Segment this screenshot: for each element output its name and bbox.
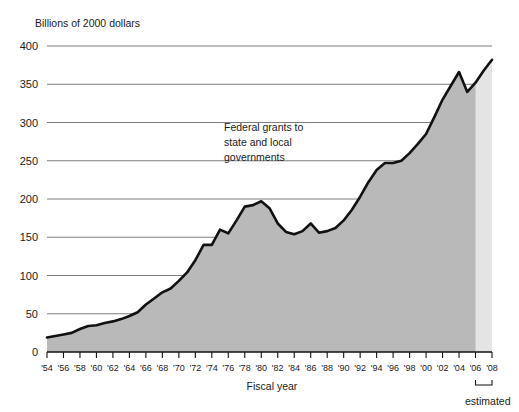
- x-tick-label: '60: [91, 363, 103, 373]
- annotation-line-2: state and local: [224, 136, 292, 148]
- x-axis-title: Fiscal year: [247, 380, 298, 392]
- x-tick-label: '88: [321, 363, 333, 373]
- x-tick-label: '82: [272, 363, 284, 373]
- y-tick-label: 0: [32, 346, 38, 358]
- x-tick-label: '78: [239, 363, 251, 373]
- estimated-region-fill: [476, 60, 492, 352]
- x-tick-label: '58: [74, 363, 86, 373]
- x-tick-label: '68: [157, 363, 169, 373]
- axes: [47, 352, 492, 358]
- y-tick-label: 250: [20, 155, 38, 167]
- y-axis-tick-labels: 050100150200250300350400: [20, 40, 38, 358]
- x-tick-label: '90: [338, 363, 350, 373]
- x-tick-label: '70: [173, 363, 185, 373]
- x-tick-label: '06: [470, 363, 482, 373]
- x-tick-label: '00: [420, 363, 432, 373]
- federal-grants-area-chart: 050100150200250300350400 '54'56'58'60'62…: [0, 0, 519, 412]
- y-tick-label: 400: [20, 40, 38, 52]
- x-tick-label: '56: [58, 363, 70, 373]
- chart-container: 050100150200250300350400 '54'56'58'60'62…: [0, 0, 519, 412]
- x-tick-label: '94: [371, 363, 383, 373]
- x-tick-label: '84: [288, 363, 300, 373]
- x-tick-label: '08: [486, 363, 498, 373]
- y-tick-label: 350: [20, 78, 38, 90]
- x-tick-label: '62: [107, 363, 119, 373]
- area-series-fill: [47, 60, 492, 352]
- annotation-line-1: Federal grants to: [224, 121, 304, 133]
- x-tick-label: '86: [305, 363, 317, 373]
- y-tick-label: 100: [20, 270, 38, 282]
- estimated-fill-path: [476, 60, 492, 352]
- area-fill-path: [47, 60, 492, 352]
- x-tick-label: '80: [255, 363, 267, 373]
- x-tick-label: '72: [189, 363, 201, 373]
- y-tick-label: 300: [20, 117, 38, 129]
- x-tick-label: '02: [437, 363, 449, 373]
- x-axis-tick-labels: '54'56'58'60'62'64'66'68'70'72'74'76'78'…: [41, 363, 498, 373]
- y-tick-label: 200: [20, 193, 38, 205]
- x-tick-label: '64: [124, 363, 136, 373]
- y-tick-label: 50: [26, 308, 38, 320]
- x-tick-label: '04: [453, 363, 465, 373]
- estimated-bracket: [476, 380, 492, 385]
- x-tick-label: '76: [222, 363, 234, 373]
- y-axis-unit-label: Billions of 2000 dollars: [35, 17, 140, 29]
- x-tick-label: '92: [354, 363, 366, 373]
- y-tick-label: 150: [20, 231, 38, 243]
- x-tick-label: '98: [404, 363, 416, 373]
- x-tick-label: '66: [140, 363, 152, 373]
- x-tick-label: '54: [41, 363, 53, 373]
- estimated-label: estimated: [465, 395, 511, 407]
- x-tick-label: '74: [206, 363, 218, 373]
- x-tick-label: '96: [387, 363, 399, 373]
- annotation-line-3: governments: [224, 151, 285, 163]
